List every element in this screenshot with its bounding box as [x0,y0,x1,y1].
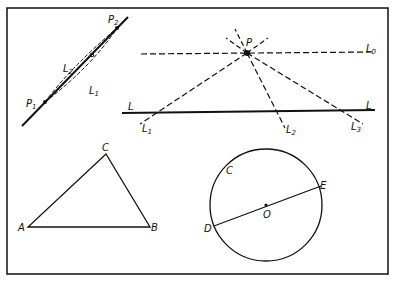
label-l-left: L [128,101,134,112]
label-o: O [263,209,271,220]
panel-line-segment: P1 P2 L2 L1 [22,14,128,126]
label-l2: L2 [63,63,74,76]
panel-pencil-of-lines: P L L L0 L1 L2 L3 [122,29,377,137]
label-l1-pencil: L1 [142,123,152,136]
panel-circle: O C D E [204,149,327,261]
center-o-marker [264,203,267,206]
label-b: B [151,222,158,233]
dashed-line-l0 [141,52,372,54]
label-c: C [102,142,109,153]
label-d: D [204,223,212,234]
label-a: A [17,222,25,233]
label-p: P [246,37,253,48]
label-l-right: L [366,100,372,111]
figure-frame [7,8,388,274]
point-p1-marker [43,100,47,104]
label-l1: L1 [89,85,99,98]
panel-triangle: A B C [17,142,158,233]
label-l2-pencil: L2 [286,124,297,137]
label-p1: P1 [26,98,37,111]
geometry-figure: P1 P2 L2 L1 P L L L0 L1 L2 L3 A B C [0,0,395,282]
label-l3-pencil: L3 [351,121,361,134]
triangle-abc [28,154,150,227]
label-e: E [320,180,327,191]
point-p-marker [244,50,250,56]
dashed-line-l1 [140,53,247,124]
label-l0: L0 [366,43,377,56]
solid-line-p1-p2 [22,17,128,126]
label-p2: P2 [108,14,119,27]
diameter-de [214,186,321,226]
label-c-circle: C [226,165,233,176]
